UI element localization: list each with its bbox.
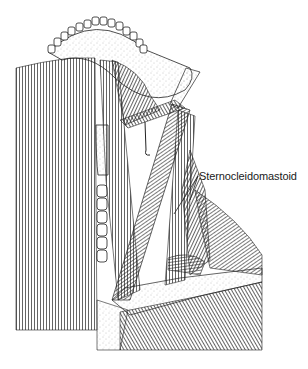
label-sternocleidomastoid: Sternocleidomastoid [199, 170, 297, 182]
trapezius-left [16, 58, 97, 330]
hyoid-hook [145, 122, 150, 155]
anatomy-illustration: Sternocleidomastoid [0, 0, 308, 369]
neck-muscle-drawing [0, 0, 308, 369]
